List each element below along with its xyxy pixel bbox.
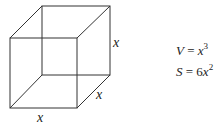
edge-label-depth: x	[96, 88, 102, 102]
equals-sign: =	[183, 64, 197, 79]
surface-exponent: 2	[209, 62, 214, 72]
volume-formula: V = x3	[176, 44, 208, 57]
edge-label-width: x	[37, 111, 43, 125]
cube-edge	[77, 75, 110, 108]
cube-edge	[77, 6, 110, 38]
edge-label-height: x	[113, 36, 119, 50]
surface-formula: S = 6x2	[176, 65, 213, 78]
cube-edge	[10, 6, 42, 38]
volume-exponent: 3	[204, 41, 209, 51]
volume-symbol: V	[176, 43, 184, 58]
cube-edge	[10, 75, 42, 108]
equals-sign: =	[184, 43, 198, 58]
